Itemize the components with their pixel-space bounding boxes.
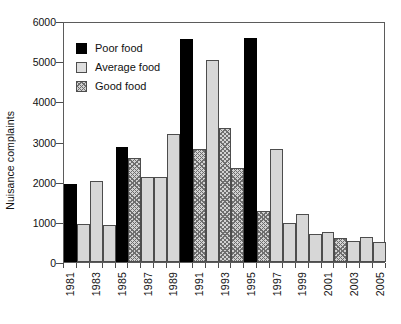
- x-tick-label-2001: 2001: [322, 272, 334, 296]
- y-tick-label-4000: 4000: [4, 96, 56, 108]
- bar-2001: [322, 232, 335, 262]
- y-tick-label-6000: 6000: [4, 16, 56, 28]
- x-tick-label-1985: 1985: [116, 272, 128, 296]
- x-tick-16: [269, 263, 270, 268]
- x-tick-17: [282, 263, 283, 268]
- bar-1981: [64, 184, 77, 262]
- x-tick-18: [295, 263, 296, 268]
- x-tick-10: [192, 263, 193, 268]
- x-tick-label-1995: 1995: [245, 272, 257, 296]
- x-tick-21: [333, 263, 334, 268]
- x-tick-1: [76, 263, 77, 268]
- bar-1996: [257, 211, 270, 262]
- x-tick-13: [230, 263, 231, 268]
- x-tick-20: [321, 263, 322, 268]
- x-tick-9: [179, 263, 180, 268]
- x-tick-22: [346, 263, 347, 268]
- x-tick-label-1981: 1981: [64, 272, 76, 296]
- legend-swatch-poor: [76, 43, 87, 54]
- legend: Poor foodAverage foodGood food: [76, 40, 160, 97]
- y-tick-label-1000: 1000: [4, 217, 56, 229]
- legend-label-poor: Poor food: [95, 42, 143, 54]
- y-tick-label-5000: 5000: [4, 56, 56, 68]
- bar-2002: [334, 238, 347, 262]
- bar-2000: [309, 234, 322, 262]
- bar-1985: [116, 147, 129, 262]
- y-tick-4000: [56, 102, 63, 103]
- x-tick-24: [372, 263, 373, 268]
- x-tick-label-1993: 1993: [219, 272, 231, 296]
- x-tick-8: [166, 263, 167, 268]
- y-axis-labels: 0100020003000400050006000: [0, 0, 56, 324]
- legend-label-average: Average food: [95, 61, 160, 73]
- bar-2005: [373, 242, 386, 262]
- bar-1983: [90, 181, 103, 262]
- x-tick-7: [153, 263, 154, 268]
- legend-item-poor: Poor food: [76, 40, 160, 57]
- y-tick-label-3000: 3000: [4, 137, 56, 149]
- x-tick-2: [89, 263, 90, 268]
- legend-swatch-good: [76, 81, 87, 92]
- y-tick-label-0: 0: [4, 257, 56, 269]
- bar-1993: [219, 128, 232, 262]
- bar-1995: [244, 38, 257, 262]
- legend-label-good: Good food: [95, 80, 146, 92]
- x-tick-5: [127, 263, 128, 268]
- y-tick-2000: [56, 183, 63, 184]
- legend-swatch-average: [76, 62, 87, 73]
- legend-item-good: Good food: [76, 78, 160, 95]
- x-tick-4: [115, 263, 116, 268]
- x-tick-25: [385, 263, 386, 268]
- x-tick-label-1983: 1983: [90, 272, 102, 296]
- y-tick-6000: [56, 22, 63, 23]
- bar-1990: [180, 39, 193, 262]
- y-tick-3000: [56, 143, 63, 144]
- x-tick-15: [256, 263, 257, 268]
- bar-1997: [270, 149, 283, 262]
- x-tick-14: [243, 263, 244, 268]
- bar-1992: [206, 60, 219, 262]
- x-tick-0: [63, 263, 64, 268]
- bar-1982: [77, 224, 90, 262]
- x-tick-label-1989: 1989: [167, 272, 179, 296]
- x-tick-23: [359, 263, 360, 268]
- bar-1998: [283, 223, 296, 262]
- y-tick-label-2000: 2000: [4, 177, 56, 189]
- bar-chart: Nuisance complaints 01000200030004000500…: [0, 0, 401, 324]
- bar-2003: [347, 241, 360, 262]
- bar-1986: [128, 158, 141, 262]
- bar-1999: [296, 214, 309, 262]
- x-tick-3: [102, 263, 103, 268]
- y-tick-1000: [56, 223, 63, 224]
- x-tick-label-2005: 2005: [374, 272, 386, 296]
- x-tick-label-1999: 1999: [296, 272, 308, 296]
- bar-1989: [167, 134, 180, 262]
- bar-1991: [193, 149, 206, 262]
- x-tick-label-2003: 2003: [348, 272, 360, 296]
- bar-1984: [103, 225, 116, 262]
- x-tick-19: [308, 263, 309, 268]
- x-tick-label-1991: 1991: [193, 272, 205, 296]
- legend-item-average: Average food: [76, 59, 160, 76]
- bar-2004: [360, 237, 373, 262]
- y-tick-5000: [56, 62, 63, 63]
- x-tick-12: [218, 263, 219, 268]
- x-tick-11: [205, 263, 206, 268]
- x-tick-label-1987: 1987: [142, 272, 154, 296]
- x-tick-6: [140, 263, 141, 268]
- bar-1994: [231, 168, 244, 262]
- bar-1987: [141, 177, 154, 262]
- bar-1988: [154, 177, 167, 262]
- x-tick-label-1997: 1997: [271, 272, 283, 296]
- y-tick-0: [56, 263, 63, 264]
